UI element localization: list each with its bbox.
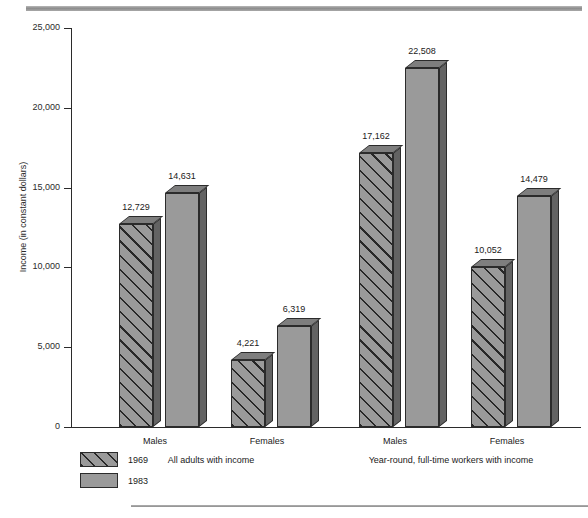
bar-1983-Males-2	[405, 68, 439, 427]
bar-value-label: 4,221	[221, 339, 275, 348]
y-tick-mark	[64, 267, 72, 268]
bar-front-face	[231, 360, 265, 427]
bar-1983-Females-1	[277, 326, 311, 427]
x-category-label-3: Females	[462, 437, 552, 446]
bar-value-label: 6,319	[267, 305, 321, 314]
y-tick-label: 15,000	[0, 183, 60, 193]
bar-side-face	[199, 187, 207, 427]
y-tick-label: 10,000	[0, 262, 60, 272]
bar-1969-Females-3	[471, 267, 505, 427]
y-tick-label: 25,000	[0, 23, 60, 33]
bar-front-face	[165, 193, 199, 427]
y-tick-mark	[64, 108, 72, 109]
bar-1983-Females-3	[517, 196, 551, 427]
bar-1969-Males-2	[359, 153, 393, 427]
y-tick-label-text: 20,000	[32, 103, 60, 112]
bar-value-label: 14,479	[507, 175, 561, 184]
bar-value-label: 14,631	[155, 172, 209, 181]
bar-side-face	[393, 147, 401, 427]
x-group-label-0: All adults with income	[91, 455, 331, 465]
bar-value-label: 22,508	[395, 47, 449, 56]
y-tick-mark	[64, 427, 72, 428]
bar-1969-Females-1	[231, 360, 265, 427]
legend-label-text: 1983	[128, 476, 148, 486]
y-tick-label-text: 15,000	[32, 183, 60, 192]
y-tick-mark	[64, 28, 72, 29]
bar-front-face	[405, 68, 439, 427]
legend-swatch-solid	[80, 473, 118, 488]
y-tick-label-text: 25,000	[32, 23, 60, 32]
y-tick-label-text: 0	[55, 422, 60, 431]
bar-1983-Males-0	[165, 193, 199, 427]
bar-side-face	[551, 190, 559, 427]
bar-front-face	[119, 224, 153, 427]
bottom-decorative-rule	[131, 505, 588, 507]
y-tick-label: 0	[0, 422, 60, 432]
bar-side-face	[311, 320, 319, 427]
y-tick-mark	[64, 347, 72, 348]
bar-side-face	[505, 260, 513, 427]
bar-value-label: 10,052	[461, 246, 515, 255]
bar-side-face	[439, 62, 447, 427]
y-tick-label: 5,000	[0, 342, 60, 352]
y-tick-label: 20,000	[0, 103, 60, 113]
y-tick-label-text: 10,000	[32, 262, 60, 271]
bar-front-face	[359, 153, 393, 427]
y-tick-label-text: 5,000	[37, 342, 60, 351]
bar-side-face	[153, 218, 161, 427]
bar-front-face	[517, 196, 551, 427]
y-axis-line	[71, 28, 72, 428]
y-tick-mark	[64, 188, 72, 189]
legend-label-text: 1969	[128, 455, 148, 465]
bar-chart: Income (in constant dollars) 25,00020,00…	[0, 0, 588, 518]
bar-value-label: 12,729	[109, 203, 163, 212]
legend-swatch-hatched	[80, 452, 118, 467]
bar-1969-Males-0	[119, 224, 153, 427]
x-category-label-2: Males	[350, 437, 440, 446]
x-category-label-0: Males	[110, 437, 200, 446]
bar-front-face	[471, 267, 505, 427]
bar-side-face	[265, 353, 273, 427]
x-category-label-1: Females	[222, 437, 312, 446]
x-group-label-1: Year-round, full-time workers with incom…	[331, 455, 571, 465]
bar-front-face	[277, 326, 311, 427]
bar-value-label: 17,162	[349, 132, 403, 141]
